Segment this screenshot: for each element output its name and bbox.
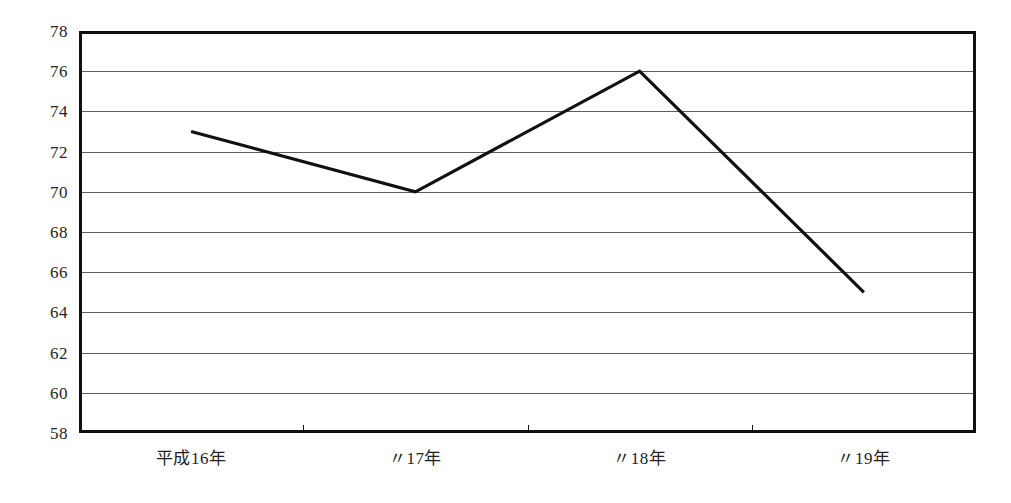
- gridline-64: [82, 312, 973, 313]
- gridline-62: [82, 353, 973, 354]
- y-tick-label-76: 76: [8, 63, 68, 80]
- plot-area-frame: [79, 31, 976, 433]
- y-tick-label-66: 66: [8, 264, 68, 281]
- y-axis-tick-labels: 7876747270686664626058: [0, 0, 68, 503]
- x-tick-mark-3: [752, 425, 753, 433]
- x-tick-label-0: 平成16年: [156, 449, 227, 469]
- x-tick-mark-1: [303, 425, 304, 433]
- x-tick-label-2: 〃18年: [613, 449, 666, 469]
- x-tick-label-1: 〃17年: [389, 449, 442, 469]
- gridline-66: [82, 272, 973, 273]
- y-tick-label-68: 68: [8, 224, 68, 241]
- x-tick-mark-2: [528, 425, 529, 433]
- gridline-72: [82, 152, 973, 153]
- line-chart: 7876747270686664626058 平成16年〃17年〃18年〃19年: [0, 0, 1011, 503]
- gridline-76: [82, 71, 973, 72]
- y-tick-label-78: 78: [8, 23, 68, 40]
- gridline-70: [82, 192, 973, 193]
- gridline-68: [82, 232, 973, 233]
- y-tick-label-60: 60: [8, 385, 68, 402]
- y-tick-label-64: 64: [8, 304, 68, 321]
- y-tick-label-72: 72: [8, 144, 68, 161]
- gridline-74: [82, 111, 973, 112]
- gridline-60: [82, 393, 973, 394]
- y-tick-label-58: 58: [8, 425, 68, 442]
- y-tick-label-74: 74: [8, 103, 68, 120]
- y-tick-label-70: 70: [8, 184, 68, 201]
- x-tick-label-3: 〃19年: [837, 449, 890, 469]
- y-tick-label-62: 62: [8, 345, 68, 362]
